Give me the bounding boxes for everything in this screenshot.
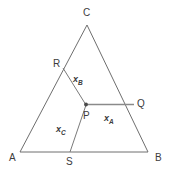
segment-label-xc: xC (56, 125, 66, 137)
point-label-r: R (53, 59, 60, 69)
point-label-q: Q (137, 99, 145, 109)
point-label-c: C (83, 8, 90, 18)
segment-label-xc-sub: C (61, 129, 66, 136)
point-label-b: B (155, 153, 162, 163)
point-label-s: S (66, 157, 73, 167)
side-cb (87, 25, 148, 152)
point-label-p: P (83, 111, 90, 121)
segment-label-xa: xA (104, 114, 114, 126)
point-p-marker (84, 103, 88, 107)
point-label-a: A (9, 153, 16, 163)
triangle-abc (20, 25, 148, 152)
geometry-diagram: A B C P Q R S xA xB xC (0, 0, 170, 173)
segment-label-xb: xB (73, 75, 83, 87)
segment-label-xb-sub: B (78, 79, 83, 86)
diagram-canvas (0, 0, 170, 173)
segment-label-xa-sub: A (109, 118, 114, 125)
